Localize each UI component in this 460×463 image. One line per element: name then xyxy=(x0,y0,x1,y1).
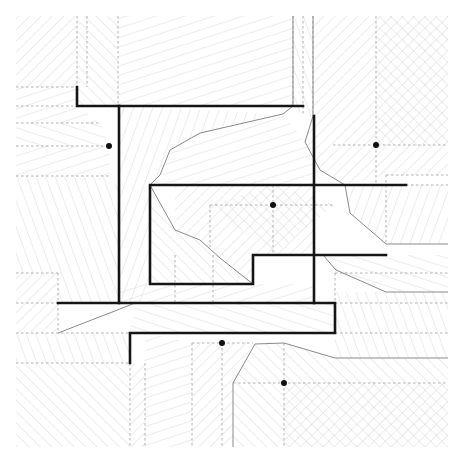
region-top-left-strip xyxy=(77,16,118,106)
region-right-bottom-band xyxy=(335,292,448,358)
region-boundary xyxy=(58,303,135,333)
diagram-canvas xyxy=(0,0,460,463)
region-bottom-right-b xyxy=(284,383,448,447)
dot-center-point xyxy=(270,202,276,208)
region-left-band-2 xyxy=(16,123,109,146)
region-top-center xyxy=(118,16,293,106)
region-left-lower-2 xyxy=(16,333,130,363)
region-bottom-strip xyxy=(130,363,145,447)
dot-left-point xyxy=(106,143,112,149)
dot-top-right-point xyxy=(373,142,379,148)
region-bar-inner xyxy=(130,303,335,333)
region-bottom-left xyxy=(16,363,130,447)
region-bottom-center xyxy=(145,333,192,447)
region-top-left xyxy=(16,16,77,87)
region-top-right-b xyxy=(376,16,448,145)
region-right-lower xyxy=(314,255,448,292)
dot-bottom-point xyxy=(281,380,287,386)
hatch-regions xyxy=(16,16,448,447)
region-lower-bar xyxy=(119,284,314,303)
region-left-band-3 xyxy=(16,146,110,176)
region-right-mid xyxy=(314,185,448,244)
dot-lower-mid-point xyxy=(219,340,225,346)
